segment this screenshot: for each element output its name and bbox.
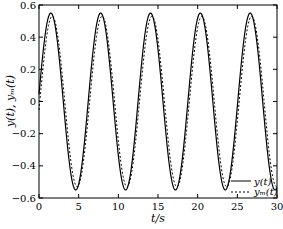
y-tick-label: 0.6 — [20, 0, 36, 11]
y-tick-label: −0.2 — [12, 128, 36, 139]
y-tick-label: −0.6 — [12, 193, 36, 204]
series-y-line — [39, 13, 277, 190]
y-tick-label: 0 — [30, 96, 36, 107]
y-tick-label: −0.4 — [12, 160, 36, 171]
y-tick-label: 0.2 — [20, 64, 36, 75]
plot-frame — [39, 5, 277, 198]
legend-label-ym: yₘ(t) — [253, 186, 278, 197]
x-tick-label: 5 — [75, 201, 81, 212]
x-tick-label: 0 — [36, 201, 42, 212]
x-tick-label: 30 — [271, 201, 283, 212]
x-tick-label: 25 — [231, 201, 244, 212]
line-chart: 051015202530 −0.6−0.4−0.200.20.40.6 t/s … — [0, 0, 283, 229]
x-tick-label: 20 — [191, 201, 204, 212]
plot-curves — [39, 13, 277, 190]
y-axis-label: y(t), yₘ(t) — [4, 75, 17, 128]
legend: y(t) yₘ(t) — [231, 176, 278, 197]
x-axis-label: t/s — [151, 212, 165, 225]
x-tick-label: 15 — [152, 201, 165, 212]
x-tick-label: 10 — [112, 201, 125, 212]
y-tick-label: 0.4 — [20, 32, 36, 43]
series-ym-line — [39, 16, 277, 186]
